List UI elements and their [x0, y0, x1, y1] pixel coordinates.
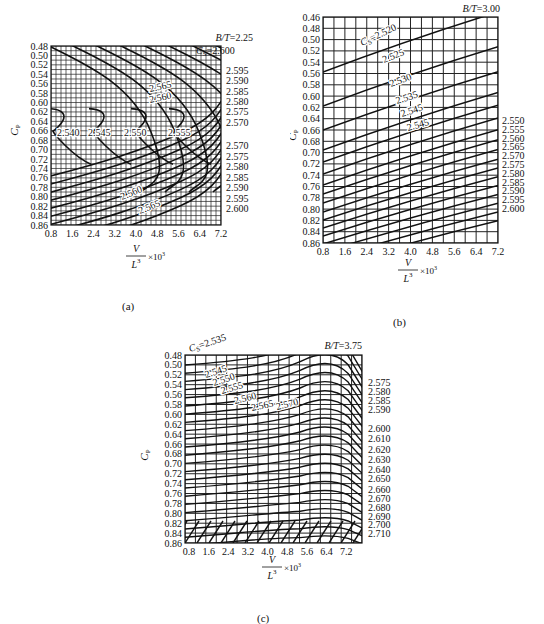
bt-ratio-label: B/T=3.00 — [462, 3, 500, 14]
y-tick-label: 0.60 — [303, 91, 321, 102]
contour-line — [389, 521, 403, 543]
contour-line — [185, 418, 364, 444]
x-tick-label: 2.4 — [87, 228, 100, 239]
x-tick-label: 5.6 — [448, 246, 461, 257]
contour-value-label: 2.595 — [226, 193, 249, 204]
x-tick-label: 2.4 — [361, 246, 374, 257]
contour-value-label: 2.585 — [226, 172, 249, 183]
contour-line — [269, 521, 283, 543]
y-tick-label: 0.56 — [303, 68, 321, 79]
chart-panel-c: 0.480.500.520.540.560.580.600.620.640.66… — [140, 330, 440, 618]
panel-caption: (c) — [257, 612, 269, 624]
x-axis-label-numerator: V — [133, 243, 141, 254]
y-tick-label: 0.46 — [303, 12, 321, 23]
y-tick-label: 0.50 — [303, 34, 321, 45]
x-tick-label: 3.2 — [109, 228, 122, 239]
y-tick-label: 0.54 — [303, 57, 321, 68]
x-tick-label: 4.8 — [151, 228, 164, 239]
y-tick-label: 0.76 — [303, 181, 321, 192]
y-axis-label: CP — [290, 129, 300, 140]
panel-caption: (b) — [393, 316, 406, 328]
y-tick-label: 0.80 — [303, 204, 321, 215]
x-tick-label: 3.2 — [242, 546, 255, 557]
contour-value-label: 2.650 — [368, 473, 391, 484]
contour-line — [221, 521, 235, 543]
x-tick-label: 0.8 — [45, 228, 58, 239]
contour-line — [185, 521, 199, 543]
contour-line — [305, 521, 319, 543]
x-tick-label: 4.0 — [130, 228, 143, 239]
x-axis-label-numerator: V — [405, 257, 413, 268]
chart-panel-a: 0.480.500.520.540.560.580.600.620.640.66… — [0, 0, 290, 330]
y-tick-label: 0.70 — [303, 147, 321, 158]
contour-inline-label: 2.555 — [168, 127, 191, 138]
x-tick-label: 4.0 — [404, 246, 417, 257]
contour-value-label: 2.590 — [368, 404, 391, 415]
x-axis-multiplier: ×103 — [420, 265, 437, 276]
x-tick-label: 7.2 — [340, 546, 353, 557]
x-tick-label: 4.8 — [281, 546, 294, 557]
contour-line — [149, 521, 163, 543]
y-tick-label: 0.74 — [303, 170, 321, 181]
x-axis-label-denominator: L3 — [266, 568, 277, 581]
x-axis-multiplier: ×103 — [284, 562, 301, 573]
x-tick-label: 1.6 — [339, 246, 352, 257]
y-tick-label: 0.86 — [165, 538, 183, 549]
contour-value-label: 2.590 — [226, 182, 249, 193]
y-tick-label: 0.62 — [303, 102, 321, 113]
x-axis-label-denominator: L3 — [402, 271, 413, 284]
y-tick-label: 0.68 — [303, 136, 321, 147]
chart-svg-b: 0.460.480.500.520.540.560.580.600.620.64… — [290, 0, 544, 330]
chart-panel-b: 0.460.480.500.520.540.560.580.600.620.64… — [290, 0, 544, 330]
bt-ratio-label: B/T=2.25 — [215, 32, 253, 43]
x-axis-multiplier: ×103 — [148, 251, 165, 262]
x-tick-label: 1.6 — [66, 228, 79, 239]
contour-inline-label: 2.545 — [88, 127, 111, 138]
contour-value-label: CS=2.600 — [196, 45, 235, 58]
y-tick-label: 0.78 — [303, 192, 321, 203]
x-tick-label: 5.6 — [172, 228, 185, 239]
y-axis-label: CP — [8, 124, 22, 135]
contour-line — [185, 427, 364, 452]
contour-lines — [41, 42, 290, 249]
y-axis-label: CP — [140, 449, 152, 460]
contour-value-label: 2.710 — [368, 528, 391, 539]
contour-value-label: 2.610 — [368, 433, 391, 444]
panel-caption: (a) — [122, 300, 134, 312]
contour-line — [197, 521, 211, 543]
x-tick-label: 7.2 — [492, 246, 505, 257]
contour-value-label: 2.580 — [226, 161, 249, 172]
contour-line — [317, 521, 331, 543]
chart-svg-a: 0.480.500.520.540.560.580.600.620.640.66… — [0, 0, 290, 330]
x-tick-label: 2.4 — [222, 546, 235, 557]
contour-inline-label: CS=2.535 — [187, 331, 228, 355]
contour-value-label: 2.575 — [226, 151, 249, 162]
y-tick-label: 0.66 — [303, 125, 321, 136]
y-tick-label: 0.84 — [303, 226, 321, 237]
contour-line — [185, 409, 364, 437]
contour-value-label: 2.600 — [226, 203, 249, 214]
x-axis-label-denominator: L3 — [130, 257, 141, 270]
x-tick-label: 6.4 — [194, 228, 207, 239]
contour-inline-label: 2.565 — [137, 197, 162, 216]
y-tick-label: 0.52 — [303, 45, 321, 56]
y-tick-label: 0.82 — [303, 215, 321, 226]
x-tick-label: 6.4 — [320, 546, 333, 557]
contour-inline-label: 2.550 — [124, 127, 147, 138]
x-tick-label: 5.6 — [301, 546, 314, 557]
y-tick-label: 0.64 — [303, 113, 321, 124]
x-axis-label-numerator: V — [269, 554, 277, 565]
chart-svg-c: 0.480.500.520.540.560.580.600.620.640.66… — [140, 330, 440, 618]
bt-ratio-label: B/T=3.75 — [324, 340, 362, 351]
x-tick-label: 3.2 — [382, 246, 395, 257]
contour-value-label: 2.600 — [502, 203, 525, 214]
x-tick-label: 6.4 — [470, 246, 483, 257]
contour-inline-label: CS=2.520 — [358, 21, 399, 49]
contour-line — [281, 521, 295, 543]
y-tick-label: 0.48 — [303, 23, 321, 34]
x-tick-label: 1.6 — [202, 546, 215, 557]
x-tick-label: 7.2 — [215, 228, 228, 239]
x-tick-label: 4.8 — [426, 246, 439, 257]
x-tick-label: 0.8 — [183, 546, 196, 557]
contour-value-label: 2.570 — [226, 117, 249, 128]
